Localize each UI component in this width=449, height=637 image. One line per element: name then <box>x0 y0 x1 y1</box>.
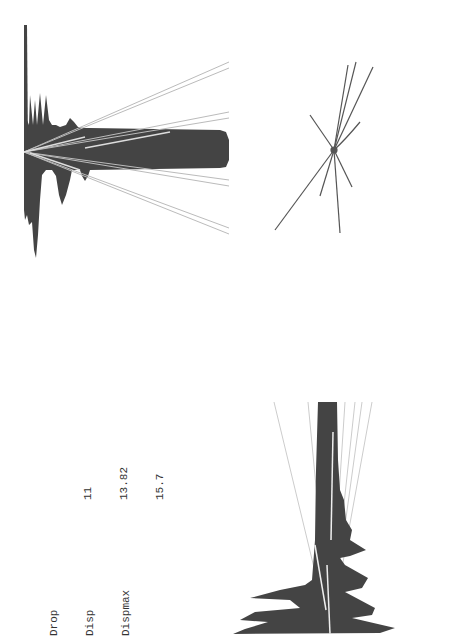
bottom-waveform-plot <box>233 402 395 634</box>
readout-values: 11 13.82 15.7 <box>58 467 178 500</box>
label-dispmax: Dispmax <box>120 590 132 636</box>
label-disp: Disp <box>84 590 96 636</box>
value-drop: 11 <box>82 467 94 500</box>
value-dispmax: 15.7 <box>154 467 166 500</box>
label-drop: Drop <box>48 590 60 636</box>
star-trace-plot <box>275 62 373 233</box>
value-disp: 13.82 <box>118 467 130 500</box>
readout-labels: Drop Disp Dispmax <box>24 590 144 636</box>
plot-canvas <box>0 0 449 637</box>
top-waveform-plot <box>24 25 229 258</box>
